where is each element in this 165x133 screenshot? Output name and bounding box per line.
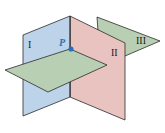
point-p <box>68 46 73 51</box>
label-plane-iii: III <box>136 35 146 46</box>
three-planes-diagram: I P II III <box>0 0 165 133</box>
label-plane-ii: II <box>111 47 118 58</box>
label-point-p: P <box>59 37 66 48</box>
label-plane-i: I <box>28 39 31 50</box>
